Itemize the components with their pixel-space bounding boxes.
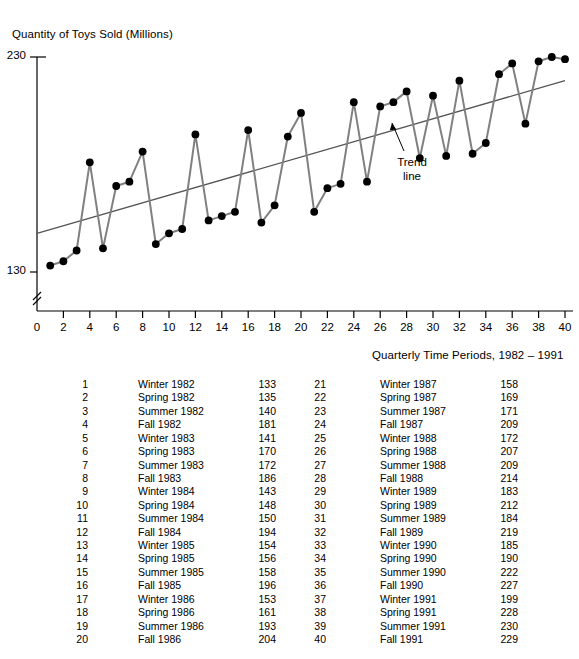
table-row: 16Fall 198519636Fall 1990227 — [0, 579, 579, 592]
table-row: 3Summer 198214023Summer 1987171 — [0, 405, 579, 418]
row-period: Spring 1984 — [138, 499, 195, 512]
data-point — [231, 208, 239, 216]
row-value: 222 — [492, 566, 518, 579]
row-index: 21 — [300, 378, 326, 391]
row-period: Fall 1985 — [138, 579, 181, 592]
table-row: 11Summer 198415031Summer 1989184 — [0, 512, 579, 525]
row-period: Winter 1984 — [138, 485, 195, 498]
data-point — [60, 257, 68, 265]
row-value: 194 — [250, 526, 276, 539]
y-tick-label-130: 130 — [0, 264, 26, 276]
data-point — [561, 55, 569, 63]
row-value: 227 — [492, 579, 518, 592]
chart-axes — [30, 57, 573, 318]
data-point — [139, 148, 147, 156]
data-point — [324, 184, 332, 192]
row-period: Fall 1990 — [380, 579, 423, 592]
row-value: 133 — [250, 378, 276, 391]
row-index: 11 — [62, 512, 88, 525]
row-period: Spring 1989 — [380, 499, 437, 512]
quarterly-data-table: 1Winter 198213321Winter 19871582Spring 1… — [0, 378, 579, 659]
row-index: 7 — [62, 459, 88, 472]
row-value: 135 — [250, 391, 276, 404]
table-row: 8Fall 198318628Fall 1988214 — [0, 472, 579, 485]
table-row: 20Fall 198620440Fall 1991229 — [0, 633, 579, 646]
row-period: Winter 1987 — [380, 378, 437, 391]
row-index: 18 — [62, 606, 88, 619]
row-value: 207 — [492, 445, 518, 458]
row-index: 10 — [62, 499, 88, 512]
row-period: Summer 1989 — [380, 512, 446, 525]
row-index: 28 — [300, 472, 326, 485]
row-value: 228 — [492, 606, 518, 619]
table-row: 13Winter 198515433Winter 1990185 — [0, 539, 579, 552]
row-index: 1 — [62, 378, 88, 391]
row-value: 183 — [492, 485, 518, 498]
row-period: Fall 1986 — [138, 633, 181, 646]
row-value: 158 — [492, 378, 518, 391]
table-row: 4Fall 198218124Fall 1987209 — [0, 418, 579, 431]
row-period: Winter 1982 — [138, 378, 195, 391]
data-point — [125, 178, 133, 186]
time-series-chart: Quantity of Toys Sold (Millions) 130230 … — [0, 0, 579, 372]
row-value: 172 — [492, 432, 518, 445]
table-row: 17Winter 198615337Winter 1991199 — [0, 593, 579, 606]
row-value: 193 — [250, 620, 276, 633]
row-value: 184 — [492, 512, 518, 525]
row-index: 4 — [62, 418, 88, 431]
row-index: 15 — [62, 566, 88, 579]
row-value: 141 — [250, 432, 276, 445]
row-index: 24 — [300, 418, 326, 431]
row-period: Fall 1984 — [138, 526, 181, 539]
data-point — [522, 120, 530, 128]
chart-canvas — [0, 0, 579, 372]
row-value: 140 — [250, 405, 276, 418]
data-point — [442, 152, 450, 160]
trend-line — [37, 81, 565, 234]
row-index: 6 — [62, 445, 88, 458]
table-row: 15Summer 198515835Summer 1990222 — [0, 566, 579, 579]
row-value: 171 — [492, 405, 518, 418]
table-row: 1Winter 198213321Winter 1987158 — [0, 378, 579, 391]
row-index: 36 — [300, 579, 326, 592]
row-index: 13 — [62, 539, 88, 552]
row-period: Spring 1991 — [380, 606, 437, 619]
row-index: 27 — [300, 459, 326, 472]
row-period: Winter 1990 — [380, 539, 437, 552]
row-value: 212 — [492, 499, 518, 512]
data-point — [535, 57, 543, 65]
row-index: 3 — [62, 405, 88, 418]
row-value: 170 — [250, 445, 276, 458]
table-row: 9Winter 198414329Winter 1989183 — [0, 485, 579, 498]
data-point — [350, 98, 358, 106]
data-point — [86, 158, 94, 166]
data-point — [482, 139, 490, 147]
data-point — [99, 244, 107, 252]
row-value: 148 — [250, 499, 276, 512]
table-row: 18Spring 198616138Spring 1991228 — [0, 606, 579, 619]
row-value: 181 — [250, 418, 276, 431]
row-period: Winter 1983 — [138, 432, 195, 445]
row-index: 23 — [300, 405, 326, 418]
row-period: Summer 1991 — [380, 620, 446, 633]
data-point — [205, 217, 213, 225]
data-point — [284, 133, 292, 141]
row-value: 230 — [492, 620, 518, 633]
table-row: 5Winter 198314125Winter 1988172 — [0, 432, 579, 445]
row-index: 31 — [300, 512, 326, 525]
row-period: Summer 1988 — [380, 459, 446, 472]
row-period: Winter 1986 — [138, 593, 195, 606]
row-index: 38 — [300, 606, 326, 619]
row-period: Fall 1987 — [380, 418, 423, 431]
x-tick-label-40: 40 — [549, 321, 579, 333]
row-value: 229 — [492, 633, 518, 646]
data-point — [218, 212, 226, 220]
data-point — [376, 103, 384, 111]
row-index: 14 — [62, 552, 88, 565]
data-point — [244, 126, 252, 134]
data-point — [403, 88, 411, 96]
row-period: Winter 1989 — [380, 485, 437, 498]
row-value: 190 — [492, 552, 518, 565]
row-value: 186 — [250, 472, 276, 485]
data-point — [508, 60, 516, 68]
